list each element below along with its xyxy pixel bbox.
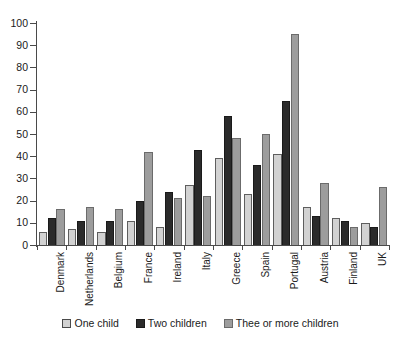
legend-item-label: Two children <box>148 318 207 329</box>
bar <box>350 227 358 245</box>
legend-item[interactable]: Thee or more children <box>224 318 339 329</box>
bar <box>144 152 152 245</box>
legend-swatch-two-children <box>136 319 145 328</box>
bar <box>361 223 369 245</box>
x-axis-category-label: Portugal <box>290 252 300 289</box>
y-axis-tick-label: 50 <box>1 129 28 140</box>
bar-group <box>273 23 299 245</box>
y-axis-tick-label: 100 <box>1 18 28 29</box>
bar <box>215 158 223 245</box>
legend-item-label: Thee or more children <box>236 318 339 329</box>
y-axis-labels: 0102030405060708090100 <box>0 0 28 340</box>
bar <box>291 34 299 245</box>
bar <box>282 101 290 245</box>
x-axis-category-label: Denmark <box>56 252 66 293</box>
x-axis-tick <box>66 245 67 250</box>
legend-swatch-three-or-more-children <box>224 319 233 328</box>
bar <box>253 165 261 245</box>
chart-legend: One childTwo childrenThee or more childr… <box>0 318 401 329</box>
bar-group <box>97 23 123 245</box>
y-axis-tick-label: 60 <box>1 106 28 117</box>
y-axis-tick-label: 30 <box>1 173 28 184</box>
x-axis-tick <box>37 245 38 250</box>
bar-group <box>156 23 182 245</box>
bar <box>303 207 311 245</box>
x-axis-tick <box>96 245 97 250</box>
x-axis-category-label: Belgium <box>114 252 124 288</box>
x-axis-tick <box>213 245 214 250</box>
x-axis-tick <box>360 245 361 250</box>
bar <box>68 229 76 245</box>
x-axis-tick <box>184 245 185 250</box>
bar-group <box>361 23 387 245</box>
bar <box>320 183 328 245</box>
bar <box>39 232 47 245</box>
bar <box>194 150 202 245</box>
bar <box>341 221 349 245</box>
bar <box>332 218 340 245</box>
bar <box>97 232 105 245</box>
bar-group <box>332 23 358 245</box>
bar <box>370 227 378 245</box>
y-axis-tick-label: 10 <box>1 217 28 228</box>
bar <box>165 192 173 245</box>
bar <box>224 116 232 245</box>
bar <box>312 216 320 245</box>
legend-item[interactable]: Two children <box>136 318 207 329</box>
bar <box>56 209 64 245</box>
bar-group <box>303 23 329 245</box>
x-axis-tick <box>272 245 273 250</box>
bar <box>174 198 182 245</box>
y-axis-tick-label: 40 <box>1 151 28 162</box>
x-axis-tick <box>125 245 126 250</box>
bar <box>262 134 270 245</box>
bar <box>232 138 240 245</box>
x-axis-tick <box>330 245 331 250</box>
y-axis-tick-label: 70 <box>1 84 28 95</box>
bar <box>273 154 281 245</box>
bar <box>203 196 211 245</box>
bar <box>115 209 123 245</box>
x-axis-tick <box>389 245 390 250</box>
x-axis-category-label: UK <box>378 252 388 266</box>
bar-group <box>215 23 241 245</box>
bar <box>48 218 56 245</box>
bar-group <box>68 23 94 245</box>
bar <box>185 185 193 245</box>
y-axis-tick-label: 0 <box>1 240 28 251</box>
legend-item[interactable]: One child <box>62 318 118 329</box>
x-axis-category-label: Finland <box>349 252 359 285</box>
bar <box>77 221 85 245</box>
bar <box>244 194 252 245</box>
x-axis-category-label: Spain <box>261 252 271 278</box>
bar-group <box>185 23 211 245</box>
x-axis-category-label: France <box>144 252 154 283</box>
x-axis-category-label: Ireland <box>173 252 183 283</box>
bar <box>106 221 114 245</box>
legend-item-label: One child <box>74 318 118 329</box>
bar-chart: 0102030405060708090100 DenmarkNetherland… <box>0 0 401 340</box>
bar-group <box>244 23 270 245</box>
y-axis-tick-label: 90 <box>1 40 28 51</box>
bar-group <box>127 23 153 245</box>
bar <box>136 201 144 245</box>
bar-group <box>39 23 65 245</box>
bar <box>86 207 94 245</box>
x-axis-tick <box>154 245 155 250</box>
bar <box>127 221 135 245</box>
y-axis-tick-label: 80 <box>1 62 28 73</box>
x-axis-category-label: Netherlands <box>85 252 95 306</box>
y-axis-tick-label: 20 <box>1 195 28 206</box>
x-axis-category-label: Greece <box>232 252 242 285</box>
x-axis-tick <box>301 245 302 250</box>
x-axis-category-label: Austria <box>320 252 330 283</box>
bar <box>379 187 387 245</box>
legend-swatch-one-child <box>62 319 71 328</box>
bar <box>156 227 164 245</box>
x-axis-tick <box>242 245 243 250</box>
x-axis-category-label: Italy <box>202 252 212 270</box>
plot-area <box>37 23 389 245</box>
